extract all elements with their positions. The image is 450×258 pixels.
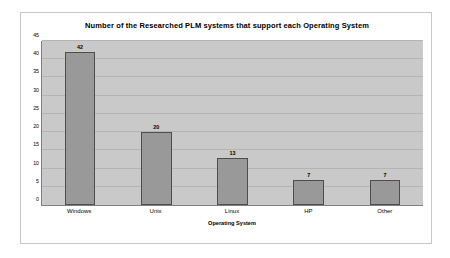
bar: 13 (217, 158, 247, 205)
bar-value-label: 13 (230, 150, 236, 156)
bar-slot: 7 (271, 41, 347, 205)
x-axis-tick-label: Unix (117, 208, 193, 214)
x-axis-tick-label: HP (270, 208, 346, 214)
bar: 42 (65, 52, 95, 205)
x-axis-tick-label: Other (347, 208, 423, 214)
bar-slot: 13 (194, 41, 270, 205)
y-axis-tick-label: 5 (36, 178, 39, 184)
bar: 7 (293, 180, 323, 206)
bar-slot: 7 (347, 41, 423, 205)
chart-frame: Number of the Researched PLM systems tha… (20, 12, 432, 244)
bar-value-label: 42 (77, 44, 83, 50)
y-axis-tick-label: 25 (33, 105, 39, 111)
y-axis-tick-label: 15 (33, 141, 39, 147)
x-axis-title: Operating System (41, 220, 423, 226)
y-axis-tick-label: 40 (33, 50, 39, 56)
bar-value-label: 20 (153, 124, 159, 130)
y-axis-tick-label: 20 (33, 123, 39, 129)
y-axis-tick-label: 45 (33, 32, 39, 38)
bar: 20 (141, 132, 171, 205)
y-axis-tick-label: 35 (33, 68, 39, 74)
bar-slot: 20 (118, 41, 194, 205)
y-axis-tick-label: 0 (36, 196, 39, 202)
y-axis-tick-label: 10 (33, 160, 39, 166)
y-axis-tick-label: 30 (33, 87, 39, 93)
bar-slot: 42 (42, 41, 118, 205)
chart-title: Number of the Researched PLM systems tha… (21, 21, 433, 30)
bar-value-label: 7 (307, 172, 310, 178)
x-axis-tick-label: Windows (41, 208, 117, 214)
plot-area: 051015202530354045 42201377 (41, 41, 423, 206)
x-axis-tick-labels: WindowsUnixLinuxHPOther (41, 208, 423, 214)
x-axis-tick-label: Linux (194, 208, 270, 214)
bar-value-label: 7 (383, 172, 386, 178)
bar-series: 42201377 (42, 41, 423, 205)
bar: 7 (370, 180, 400, 206)
